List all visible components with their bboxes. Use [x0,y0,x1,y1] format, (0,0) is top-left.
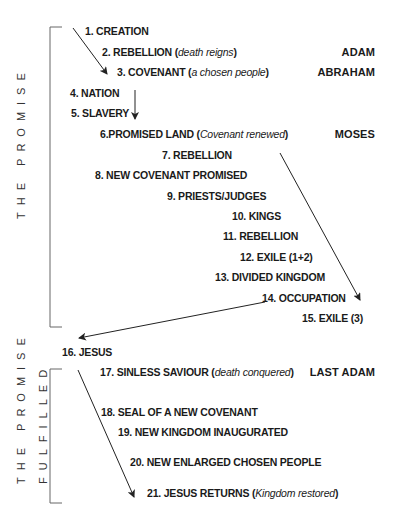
timeline-item-21: 21. JESUS RETURNS (Kingdom restored) [147,487,338,499]
section-label-promise-fulfilled-line1: THE PROMISE [15,384,27,484]
timeline-item-2: 2. REBELLION (death reigns) [102,46,237,58]
timeline-item-15: 15. EXILE (3) [302,312,363,324]
item-title: JESUS [79,346,112,358]
timeline-item-10: 10. KINGS [232,210,281,222]
timeline-item-11: 11. REBELLION [223,230,298,242]
item-title: SEAL OF A NEW COVENANT [118,406,258,418]
item-number: 11. [223,230,236,242]
item-note: a chosen people [191,66,265,78]
item-title: REBELLION [239,230,298,242]
item-title: PRIESTS/JUDGES [178,190,266,202]
item-note: death conquered [215,366,291,378]
item-number: 15. [302,312,316,324]
timeline-item-4: 4. NATION [70,87,119,99]
person-last-adam: LAST ADAM [310,366,375,378]
timeline-item-1: 1. CREATION [85,25,149,37]
item-title: OCCUPATION [279,292,346,304]
item-number: 10. [232,210,246,222]
item-title: DIVIDED KINGDOM [232,271,325,283]
bracket-the-promise [50,27,62,327]
timeline-item-8: 8. NEW COVENANT PROMISED [95,169,247,181]
item-number: 19. [118,426,132,438]
section-label-the-promise: THE PROMISE [15,109,27,219]
item-title: JESUS RETURNS [164,487,250,499]
item-title: REBELLION [173,149,232,161]
person-abraham: ABRAHAM [317,66,375,78]
item-title: EXILE (3) [319,312,363,324]
timeline-item-18: 18. SEAL OF A NEW COVENANT [101,406,258,418]
item-number: 7. [162,149,170,161]
item-number: 9. [167,190,175,202]
item-number: 13. [215,271,229,283]
item-title: CREATION [96,25,148,37]
item-note: Kingdom restored [255,487,335,499]
timeline-item-13: 13. DIVIDED KINGDOM [215,271,325,283]
timeline-item-5: 5. SLAVERY [71,107,129,119]
item-number: 18. [101,406,115,418]
item-title: PROMISED LAND [108,128,194,140]
timeline-item-14: 14. OCCUPATION [262,292,346,304]
item-title: NATION [81,87,119,99]
item-number: 16. [62,346,76,358]
item-number: 2. [102,46,110,58]
item-title: KINGS [249,210,281,222]
timeline-item-20: 20. NEW ENLARGED CHOSEN PEOPLE [130,456,321,468]
item-title: EXILE (1+2) [257,251,313,263]
item-number: 3. [117,66,125,78]
item-number: 20. [130,456,144,468]
item-title: SINLESS SAVIOUR [117,366,209,378]
timeline-item-19: 19. NEW KINGDOM INAUGURATED [118,426,288,438]
timeline-item-3: 3. COVENANT (a chosen people) [117,66,269,78]
item-note: death reigns [178,46,233,58]
item-title: NEW COVENANT PROMISED [106,169,247,181]
item-number: 21. [147,487,161,499]
timeline-item-12: 12. EXILE (1+2) [240,251,313,263]
promise-timeline-diagram: THE PROMISE THE PROMISE FULFILLED 1. CRE… [0,0,412,518]
item-title: REBELLION [113,46,172,58]
item-number: 14. [262,292,276,304]
item-title: NEW ENLARGED CHOSEN PEOPLE [147,456,322,468]
timeline-item-16-jesus: 16. JESUS [62,346,112,358]
item-number: 5. [71,107,79,119]
item-number: 8. [95,169,103,181]
timeline-item-9: 9. PRIESTS/JUDGES [167,190,266,202]
item-title: SLAVERY [82,107,129,119]
item-number: 1. [85,25,93,37]
item-number: 17. [100,366,114,378]
timeline-item-6: 6.PROMISED LAND (Covenant renewed) [100,128,288,140]
timeline-item-7: 7. REBELLION [162,149,232,161]
item-note: Covenant renewed [200,128,285,140]
arrow-occupation-to-jesus [79,302,265,338]
item-number: 4. [70,87,78,99]
item-title: COVENANT [128,66,185,78]
person-adam: ADAM [342,46,375,58]
section-label-promise-fulfilled-line2: FULFILLED [37,384,49,484]
person-moses: MOSES [335,128,375,140]
timeline-item-17: 17. SINLESS SAVIOUR (death conquered) [100,366,294,378]
item-title: NEW KINGDOM INAUGURATED [135,426,288,438]
item-number: 12. [240,251,254,263]
bracket-promise-fulfilled [50,369,62,503]
